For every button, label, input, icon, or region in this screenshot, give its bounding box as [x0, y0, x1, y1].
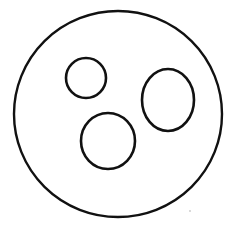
scan-speck [189, 210, 191, 212]
drawing-canvas [0, 0, 234, 232]
canvas-background [0, 0, 234, 232]
line-drawing-svg [0, 0, 234, 232]
